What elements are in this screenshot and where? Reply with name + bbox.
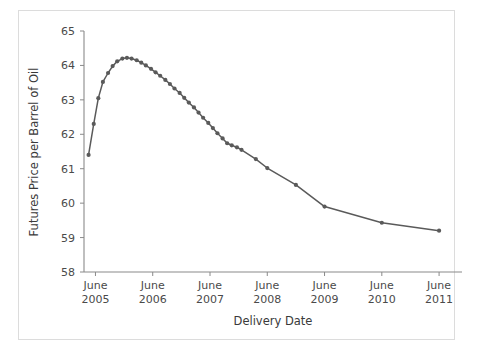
y-tick-label: 63 (61, 94, 75, 107)
x-tick-label-year: 2005 (81, 293, 109, 306)
x-tick-label-month: June (140, 279, 165, 292)
data-point-marker (178, 91, 182, 95)
y-tick-label: 59 (61, 232, 75, 245)
x-axis-title: Delivery Date (234, 314, 313, 328)
y-tick-label: 62 (61, 128, 75, 141)
data-point-marker (163, 78, 167, 82)
y-axis-title: Futures Price per Barrel of Oil (27, 68, 41, 237)
data-point-marker (129, 56, 133, 60)
x-tick-label-year: 2011 (425, 293, 453, 306)
data-point-marker (201, 116, 205, 120)
chart-plot-area: 5859606162636465 June2005June2006June200… (0, 0, 479, 358)
data-point-marker (437, 229, 441, 233)
x-tick-label-year: 2006 (139, 293, 167, 306)
x-tick-label-month: June (426, 279, 451, 292)
data-point-marker (225, 141, 229, 145)
series-markers-oil-futures (86, 56, 441, 233)
data-point-marker (101, 80, 105, 84)
data-point-marker (265, 166, 269, 170)
chart-figure: 5859606162636465 June2005June2006June200… (0, 0, 479, 358)
data-point-marker (158, 74, 162, 78)
data-point-marker (115, 59, 119, 63)
data-point-marker (182, 96, 186, 100)
y-tick-label: 60 (61, 197, 75, 210)
data-point-marker (120, 56, 124, 60)
data-point-marker (149, 67, 153, 71)
data-point-marker (144, 63, 148, 67)
x-tick-label-year: 2009 (311, 293, 339, 306)
x-tick-label-month: June (369, 279, 394, 292)
data-point-marker (135, 58, 139, 62)
data-point-marker (168, 82, 172, 86)
data-point-marker (239, 148, 243, 152)
y-tick-label: 65 (61, 25, 75, 38)
x-tick-label-year: 2010 (368, 293, 396, 306)
data-point-marker (111, 64, 115, 68)
data-point-marker (235, 145, 239, 149)
x-tick-label-month: June (254, 279, 279, 292)
data-point-marker (230, 143, 234, 147)
data-point-marker (206, 121, 210, 125)
y-tick-label: 58 (61, 266, 75, 279)
y-axis-tick-labels: 5859606162636465 (61, 25, 75, 279)
data-point-marker (139, 61, 143, 65)
y-axis-ticks (80, 31, 84, 272)
y-tick-label: 61 (61, 163, 75, 176)
data-point-marker (172, 86, 176, 90)
x-axis-ticks (95, 272, 439, 276)
data-point-marker (125, 56, 129, 60)
data-point-marker (322, 204, 326, 208)
y-tick-label: 64 (61, 59, 75, 72)
data-point-marker (96, 96, 100, 100)
data-point-marker (106, 71, 110, 75)
x-tick-label-year: 2007 (196, 293, 224, 306)
series-line-oil-futures (89, 58, 440, 231)
x-tick-label-year: 2008 (253, 293, 281, 306)
data-point-marker (380, 221, 384, 225)
data-point-marker (196, 111, 200, 115)
x-tick-label-month: June (312, 279, 337, 292)
x-tick-label-month: June (197, 279, 222, 292)
data-point-marker (192, 105, 196, 109)
data-point-marker (254, 157, 258, 161)
data-point-marker (153, 70, 157, 74)
data-point-marker (215, 131, 219, 135)
data-point-marker (187, 101, 191, 105)
data-point-marker (86, 153, 90, 157)
data-point-marker (92, 122, 96, 126)
data-point-marker (211, 126, 215, 130)
x-axis-tick-labels: June2005June2006June2007June2008June2009… (81, 279, 453, 306)
x-tick-label-month: June (82, 279, 107, 292)
data-point-marker (221, 136, 225, 140)
data-point-marker (294, 183, 298, 187)
